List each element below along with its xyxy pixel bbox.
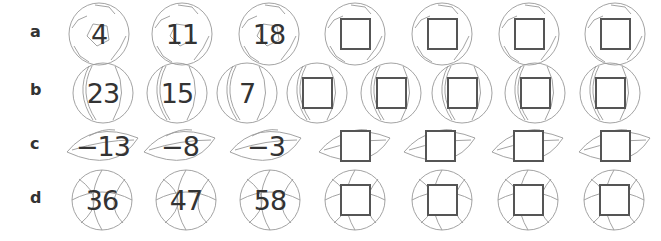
basketball-icon[interactable]	[583, 169, 645, 231]
answer-box[interactable]	[520, 77, 551, 109]
answer-box[interactable]	[595, 77, 626, 109]
tennis-ball-icon[interactable]	[286, 62, 348, 124]
basketball-icon: 47	[155, 169, 217, 231]
sequence-value: 23	[72, 62, 134, 124]
answer-box[interactable]	[340, 18, 371, 50]
sequence-value: 58	[239, 169, 301, 231]
tennis-ball-icon[interactable]	[431, 62, 493, 124]
tennis-ball-icon: 23	[72, 62, 134, 124]
american-football-icon: −3	[227, 120, 305, 172]
sequence-value: 7	[216, 62, 278, 124]
american-football-icon: −8	[141, 120, 219, 172]
american-football-icon[interactable]	[576, 120, 654, 172]
soccer-ball-icon[interactable]	[584, 2, 646, 66]
sequence-value: −13	[64, 120, 142, 172]
sequence-value: 36	[71, 169, 133, 231]
answer-box[interactable]	[514, 18, 545, 50]
american-football-icon: −13	[64, 120, 142, 172]
row-label-b: b	[30, 80, 41, 99]
answer-box[interactable]	[513, 130, 544, 162]
answer-box[interactable]	[599, 184, 630, 216]
answer-box[interactable]	[376, 77, 407, 109]
tennis-ball-icon[interactable]	[579, 62, 641, 124]
sequence-value: 11	[151, 2, 213, 66]
basketball-icon[interactable]	[497, 169, 559, 231]
answer-box[interactable]	[302, 77, 333, 109]
sequence-value: 18	[238, 2, 300, 66]
answer-box[interactable]	[340, 184, 371, 216]
tennis-ball-icon[interactable]	[360, 62, 422, 124]
soccer-ball-icon[interactable]	[411, 2, 473, 66]
tennis-ball-icon: 7	[216, 62, 278, 124]
row-label-c: c	[30, 134, 39, 153]
american-football-icon[interactable]	[401, 120, 479, 172]
answer-box[interactable]	[427, 18, 458, 50]
american-football-icon[interactable]	[316, 120, 394, 172]
sequence-value: 15	[146, 62, 208, 124]
sequence-value: 47	[155, 169, 217, 231]
soccer-ball-icon: 18	[238, 2, 300, 66]
sequence-value: 4	[68, 2, 130, 66]
soccer-ball-icon: 4	[68, 2, 130, 66]
basketball-icon: 58	[239, 169, 301, 231]
sequence-value: −3	[227, 120, 305, 172]
answer-box[interactable]	[425, 130, 456, 162]
soccer-ball-icon: 11	[151, 2, 213, 66]
basketball-icon[interactable]	[411, 169, 473, 231]
answer-box[interactable]	[447, 77, 478, 109]
soccer-ball-icon[interactable]	[498, 2, 560, 66]
answer-box[interactable]	[427, 184, 458, 216]
sequence-value: −8	[141, 120, 219, 172]
basketball-icon[interactable]	[324, 169, 386, 231]
tennis-ball-icon[interactable]	[504, 62, 566, 124]
row-label-d: d	[30, 188, 41, 207]
answer-box[interactable]	[600, 130, 631, 162]
tennis-ball-icon: 15	[146, 62, 208, 124]
answer-box[interactable]	[513, 184, 544, 216]
soccer-ball-icon[interactable]	[324, 2, 386, 66]
answer-box[interactable]	[340, 130, 371, 162]
american-football-icon[interactable]	[489, 120, 567, 172]
answer-box[interactable]	[600, 18, 631, 50]
basketball-icon: 36	[71, 169, 133, 231]
row-label-a: a	[30, 22, 41, 41]
